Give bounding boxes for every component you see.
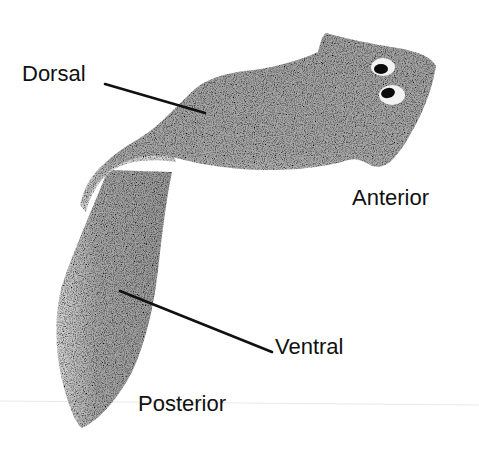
ventral-surface [56,170,172,428]
posterior-label: Posterior [138,391,226,416]
anterior-label: Anterior [352,185,429,210]
left-eye-pupil [374,64,388,74]
planarian-body [56,33,436,428]
dorsal-label: Dorsal [22,61,86,86]
ventral-label: Ventral [275,334,344,359]
planarian-diagram: Dorsal Anterior Ventral Posterior [0,0,479,452]
